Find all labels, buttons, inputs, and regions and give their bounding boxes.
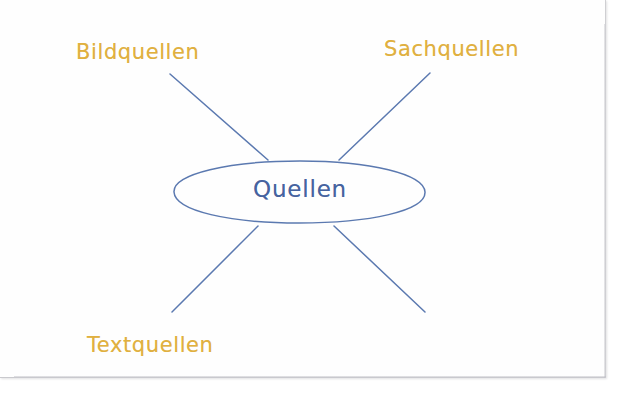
branch-label-textquellen: Textquellen: [87, 333, 214, 357]
center-node-label: Quellen: [174, 176, 426, 202]
mindmap-page: Quellen Bildquellen Sachquellen Textquel…: [0, 0, 628, 404]
branch-line-top-left: [170, 74, 268, 160]
branch-line-top-right: [339, 73, 430, 160]
branch-line-bottom-right: [334, 226, 425, 312]
branch-label-sachquellen: Sachquellen: [384, 37, 519, 61]
branch-line-bottom-left: [172, 226, 258, 312]
branch-label-bildquellen: Bildquellen: [76, 40, 199, 64]
